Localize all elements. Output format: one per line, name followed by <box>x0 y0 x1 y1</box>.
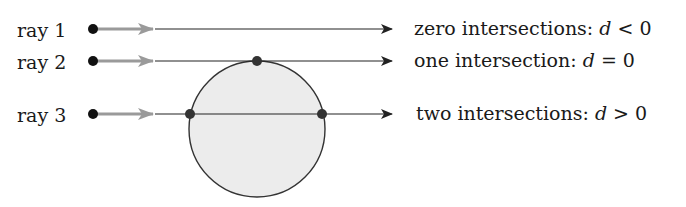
ray-2-tangent-point <box>252 56 262 66</box>
ray-3-label: ray 3 <box>17 106 66 125</box>
ray-2-result-text: one intersection: <box>414 49 583 71</box>
ray-3-result-text: two intersections: <box>416 102 595 124</box>
ray-3-exit-point <box>317 109 327 119</box>
ray-2-label: ray 2 <box>17 53 66 72</box>
ray-3-entry-point <box>185 109 195 119</box>
ray-3-discriminant-var: d <box>595 102 607 124</box>
sphere-circle <box>189 61 325 197</box>
ray-1-relation: < 0 <box>611 17 651 39</box>
ray-3-relation: > 0 <box>607 102 647 124</box>
ray-3-origin-point <box>88 109 98 119</box>
ray-2-relation: = 0 <box>595 49 635 71</box>
ray-1-label: ray 1 <box>17 21 66 40</box>
ray-1-result-label: zero intersections: d < 0 <box>414 19 652 38</box>
ray-1-result-text: zero intersections: <box>414 17 599 39</box>
ray-sphere-intersection-diagram: ray 1 ray 2 ray 3 zero intersections: d … <box>0 0 686 207</box>
ray-2-result-label: one intersection: d = 0 <box>414 51 635 70</box>
ray-2-origin-point <box>88 56 98 66</box>
ray-1-origin-point <box>88 24 98 34</box>
ray-1 <box>88 24 392 34</box>
ray-1-discriminant-var: d <box>599 17 611 39</box>
ray-3-result-label: two intersections: d > 0 <box>416 104 647 123</box>
ray-2-discriminant-var: d <box>583 49 595 71</box>
